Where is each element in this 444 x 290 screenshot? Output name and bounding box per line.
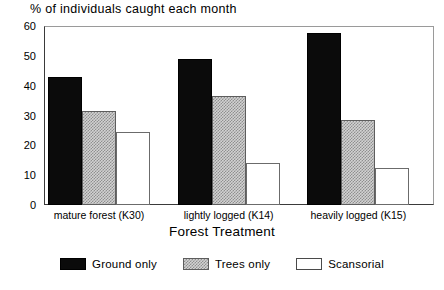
x-group-label: lightly logged (K14)	[184, 209, 274, 221]
y-tick-label: 10	[24, 170, 36, 181]
bar-trees	[82, 111, 116, 205]
x-axis-title: Forest Treatment	[0, 224, 444, 239]
bar-trees	[212, 96, 246, 205]
y-tick-label: 50	[24, 50, 36, 61]
legend-item: Ground only	[60, 258, 157, 270]
x-group-label: heavily logged (K15)	[310, 209, 406, 221]
y-tick-label: 30	[24, 110, 36, 121]
bar-ground	[307, 33, 341, 205]
bar-ground	[178, 59, 212, 205]
bars-layer	[45, 26, 434, 205]
legend-swatch-trees	[183, 258, 209, 270]
legend-label: Ground only	[92, 258, 157, 270]
x-group-label: mature forest (K30)	[54, 209, 144, 221]
chart-legend: Ground onlyTrees onlyScansorial	[0, 258, 444, 270]
bar-scansorial	[246, 163, 280, 205]
y-axis: 0102030405060	[0, 0, 44, 290]
legend-swatch-scansorial	[296, 258, 322, 270]
y-tick-label: 60	[24, 21, 36, 32]
y-tick-label: 20	[24, 140, 36, 151]
chart-title: % of individuals caught each month	[30, 2, 237, 16]
legend-item: Scansorial	[296, 258, 384, 270]
y-tick-label: 40	[24, 80, 36, 91]
bar-trees	[341, 120, 375, 205]
legend-swatch-ground	[60, 258, 86, 270]
bar-scansorial	[375, 168, 409, 205]
legend-label: Trees only	[215, 258, 270, 270]
y-tick-label: 0	[30, 200, 36, 211]
bar-ground	[48, 77, 82, 205]
legend-item: Trees only	[183, 258, 270, 270]
bar-chart: % of individuals caught each month 01020…	[0, 0, 444, 290]
bar-scansorial	[116, 132, 150, 205]
legend-label: Scansorial	[328, 258, 384, 270]
